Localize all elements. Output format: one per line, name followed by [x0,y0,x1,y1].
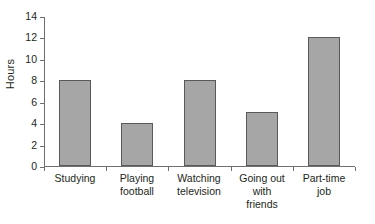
x-axis-label: Studying [44,172,106,185]
y-axis-tick: 8 [40,81,44,82]
y-axis-title: Hours [4,44,16,104]
x-axis-line [44,166,355,167]
x-axis-label-line: Watching [168,172,230,185]
x-axis-label: Watchingtelevision [168,172,230,198]
x-axis-tick [168,167,169,171]
y-axis-tick-label: 14 [25,10,37,23]
y-axis-tick: 10 [40,60,44,61]
plot-area: 02468101214 [44,17,355,167]
x-axis-tick [293,167,294,171]
y-axis-tick-label: 6 [31,96,37,109]
y-axis-tick: 2 [40,146,44,147]
y-axis-tick: 4 [40,124,44,125]
bar [246,112,278,166]
bar [184,80,216,166]
y-axis-tick: 12 [40,38,44,39]
x-axis-label: Going outwithfriends [231,172,293,211]
x-axis-tick [231,167,232,171]
bar [308,37,340,166]
y-axis-line [44,17,45,167]
x-axis-label: Playingfootball [106,172,168,198]
y-axis-tick-label: 10 [25,53,37,66]
x-axis-label-line: friends [231,198,293,211]
x-axis-label-line: television [168,185,230,198]
bar [59,80,91,166]
x-axis-label-line: football [106,185,168,198]
x-axis-tick [106,167,107,171]
x-axis-label-line: Going out [231,172,293,185]
bar [121,123,153,166]
y-axis-tick-label: 2 [31,139,37,152]
y-axis-tick-label: 0 [31,160,37,173]
y-axis-tick: 6 [40,103,44,104]
x-axis-label-line: with [231,185,293,198]
x-axis-label-line: Part-time [293,172,355,185]
bar-chart: Hours 02468101214 StudyingPlayingfootbal… [0,0,375,224]
y-axis-tick-label: 12 [25,31,37,44]
x-axis-label: Part-timejob [293,172,355,198]
x-axis-label-line: job [293,185,355,198]
y-axis-tick-label: 4 [31,117,37,130]
x-axis-tick [355,167,356,171]
y-axis-tick: 14 [40,17,44,18]
x-axis-label-line: Playing [106,172,168,185]
x-axis-tick [44,167,45,171]
y-axis-tick-label: 8 [31,74,37,87]
x-axis-label-line: Studying [44,172,106,185]
